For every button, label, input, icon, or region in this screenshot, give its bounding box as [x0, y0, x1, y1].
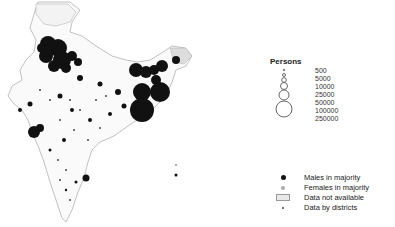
- size-label-50000: 50000: [315, 99, 334, 107]
- size-legend: 500 5000 10000 25000 50000 100000 250000: [270, 66, 390, 126]
- key-females: Females in majority: [276, 183, 369, 192]
- grey-dot-icon: [281, 186, 285, 190]
- size-label-100000: 100000: [315, 107, 338, 115]
- legend-title: Persons: [270, 57, 302, 66]
- size-label-5000: 5000: [315, 75, 331, 83]
- key-not-available: Data not available: [276, 193, 364, 202]
- india-outline: [8, 2, 192, 222]
- hatched-box-icon: [276, 194, 290, 201]
- key-districts: Data by districts: [276, 203, 357, 212]
- size-label-250000: 250000: [315, 115, 338, 123]
- size-label-500: 500: [315, 67, 327, 75]
- india-district-map: [0, 0, 260, 227]
- size-label-10000: 10000: [315, 83, 334, 91]
- size-label-25000: 25000: [315, 91, 334, 99]
- key-males: Males in majority: [276, 173, 360, 182]
- black-dot-icon: [281, 175, 286, 180]
- size-circles: [270, 66, 310, 126]
- small-dot-icon: [282, 207, 284, 209]
